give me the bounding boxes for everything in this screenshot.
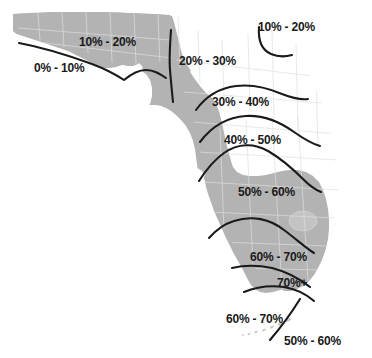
contour-label-central-50-60: 50% - 60% (238, 186, 295, 199)
contour-label-lower-keys-50-60: 50% - 60% (284, 335, 341, 348)
florida-contour-map-figure: 10% - 20% 0% - 10% 20% - 30% 10% - 20% 3… (0, 0, 372, 358)
contour-label-upper-keys-60-70: 60% - 70% (226, 313, 283, 326)
contour-label-far-south-70plus: 70%+ (277, 277, 307, 290)
contour-label-panhandle-10-20: 10% - 20% (79, 36, 136, 49)
lake-okeechobee (289, 211, 317, 231)
contour-label-panhandle-0-10: 0% - 10% (34, 62, 84, 75)
contour-label-north-central-20-30: 20% - 30% (179, 55, 236, 68)
contour-label-northeast-10-20: 10% - 20% (258, 21, 315, 34)
contour-label-south-60-70: 60% - 70% (250, 251, 307, 264)
contour-label-north-peninsula-30-40: 30% - 40% (212, 96, 269, 109)
contour-label-central-north-40-50: 40% - 50% (224, 134, 281, 147)
